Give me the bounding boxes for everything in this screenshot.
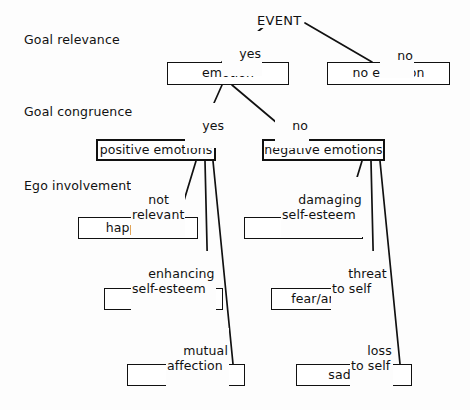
emotion-appraisal-tree-diagram: EVENT Goal relevance Goal congruence Ego… <box>0 0 470 410</box>
edge-label-relevance-yes: yes <box>222 31 262 76</box>
edge-label-loss-to-self: loss to self <box>350 328 393 388</box>
edge-label-congruence-no: no <box>275 103 309 148</box>
edge-label-congruence-yes: yes <box>185 103 225 148</box>
stage-label-ego-involvement: Ego involvement <box>24 178 131 193</box>
edge-label-damaging-self-esteem: damaging self-esteem <box>281 177 363 237</box>
root-node-label: EVENT <box>257 13 302 28</box>
edge-label-enhancing-self-esteem: enhancing self-esteem <box>131 251 216 311</box>
edge-label-relevance-no: no <box>380 33 414 78</box>
root-node-event: EVENT <box>256 13 303 28</box>
edge-label-not-relevant: not relevant <box>131 177 185 237</box>
stage-label-goal-congruence: Goal congruence <box>24 104 132 119</box>
stage-label-goal-relevance: Goal relevance <box>24 32 120 47</box>
edge-label-threat-to-self: threat to self <box>331 251 388 311</box>
edge-label-mutual-affection: mutual affection <box>166 328 229 388</box>
edge-event-to-no-emotion <box>305 23 372 62</box>
